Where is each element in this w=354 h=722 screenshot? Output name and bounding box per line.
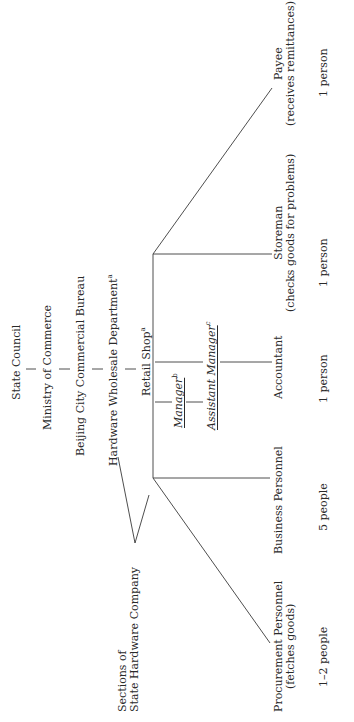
connector-procurement [153,478,270,643]
node-manager: Managerb [173,373,185,428]
count-business-personnel: 5 people [318,483,330,531]
node-sections-state-hardware: Sections of State Hardware Company [117,567,141,712]
node-hardware-wholesale-department: Hardware Wholesale Departmenta [108,274,120,466]
staff-business-personnel: Business Personnel [273,446,285,554]
node-retail-shop: Retail Shopa [141,327,153,396]
staff-payee: Payee (receives remittances) [273,1,297,126]
staff-accountant: Accountant [273,335,285,399]
count-payee: 1 person [318,48,330,97]
count-procurement: 1–2 people [318,627,330,687]
count-accountant: 1 person [318,354,330,403]
count-storeman: 1 person [318,238,330,287]
staff-procurement: Procurement Personnel (fetches goods) [273,581,297,712]
node-beijing-commercial-bureau: Beijing City Commercial Bureau [75,276,87,456]
node-state-council: State Council [11,325,23,400]
node-ministry-of-commerce: Ministry of Commerce [42,305,54,430]
connector-payee [153,88,272,254]
staff-storeman: Storeman (checks goods for problems) [273,154,297,312]
node-assistant-manager: Assistant Managerc [206,321,218,430]
org-diagram: State Council Ministry of Commerce Beiji… [0,0,354,722]
connector-sections-zigzag [118,457,149,543]
